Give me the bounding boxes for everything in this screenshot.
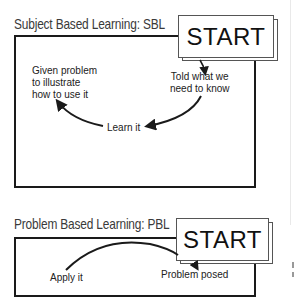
pbl-arrows (0, 0, 296, 279)
